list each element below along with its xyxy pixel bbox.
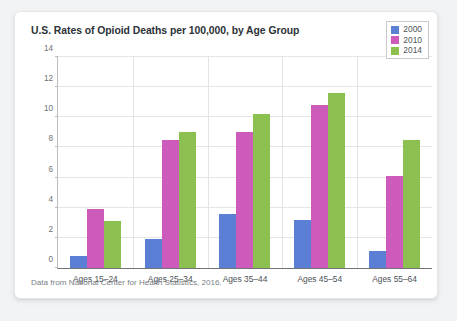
bar-group: Ages 25–34 <box>133 57 208 268</box>
bar-2010 <box>311 105 328 268</box>
bar-group: Ages 45–54 <box>282 57 357 268</box>
legend-label: 2014 <box>403 46 422 55</box>
bar-group: Ages 35–44 <box>208 57 283 268</box>
bar-2010 <box>87 209 104 268</box>
legend-item-2000: 2000 <box>391 25 422 34</box>
bar-2000 <box>369 251 386 268</box>
bar-2010 <box>236 132 253 268</box>
legend-item-2014: 2014 <box>391 46 422 55</box>
y-axis-tick-label: 8 <box>48 134 53 143</box>
y-axis-tick-label: 10 <box>44 104 53 113</box>
y-axis-tick-label: 0 <box>48 255 53 264</box>
legend-label: 2010 <box>403 36 422 45</box>
bar-2014 <box>179 132 196 268</box>
x-axis-tick-label: Ages 55–64 <box>357 274 432 284</box>
x-axis-tick-label: Ages 45–54 <box>282 274 357 284</box>
legend: 200020102014 <box>386 21 429 59</box>
source-note: Data from National Center for Health Sta… <box>31 278 222 287</box>
bar-2000 <box>145 239 162 268</box>
legend-item-2010: 2010 <box>391 36 422 45</box>
chart-plot: 02468101214 Ages 15–24Ages 25–34Ages 35–… <box>57 57 432 269</box>
bar-2010 <box>162 140 179 268</box>
y-axis-tick-label: 12 <box>44 74 53 83</box>
chart-card: U.S. Rates of Opioid Deaths per 100,000,… <box>14 11 438 299</box>
bar-2000 <box>294 220 311 268</box>
y-axis-tick-label: 14 <box>44 44 53 53</box>
bar-group: Ages 15–24 <box>58 57 133 268</box>
bar-2014 <box>403 140 420 268</box>
legend-swatch-icon <box>391 47 399 55</box>
bar-groups: Ages 15–24Ages 25–34Ages 35–44Ages 45–54… <box>58 57 432 268</box>
bar-2014 <box>253 114 270 268</box>
legend-swatch-icon <box>391 26 399 34</box>
page-title: U.S. Rates of Opioid Deaths per 100,000,… <box>31 25 299 36</box>
bar-2014 <box>328 93 345 268</box>
plot-area: 02468101214 Ages 15–24Ages 25–34Ages 35–… <box>57 57 432 269</box>
bar-2000 <box>70 256 87 268</box>
bar-2014 <box>104 221 121 268</box>
bar-2010 <box>386 176 403 268</box>
y-axis-tick-label: 4 <box>48 194 53 203</box>
bar-group: Ages 55–64 <box>357 57 432 268</box>
legend-swatch-icon <box>391 36 399 44</box>
y-axis-tick-label: 6 <box>48 164 53 173</box>
y-axis-tick-label: 2 <box>48 224 53 233</box>
legend-label: 2000 <box>403 25 422 34</box>
bar-2000 <box>219 214 236 268</box>
